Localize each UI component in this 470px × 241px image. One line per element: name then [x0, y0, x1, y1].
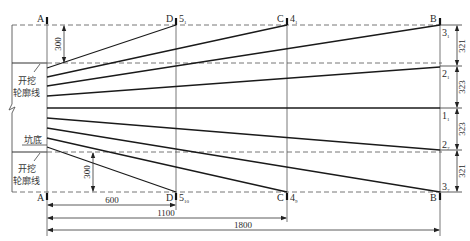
hole-5-10	[47, 147, 176, 192]
right-label-2-1: 21	[442, 68, 450, 80]
label-C-bottom: C	[277, 192, 284, 203]
dim-left-300-top: 300	[53, 37, 63, 51]
label-pit-bottom: 坑底	[24, 134, 42, 145]
dim-left-300-bottom: 300	[82, 165, 92, 179]
label-A-top: A	[37, 13, 45, 24]
right-label-3-7: 37	[442, 181, 450, 193]
dim-1100: 1100	[157, 208, 175, 218]
break-symbol	[9, 104, 15, 113]
right-label-3-1: 31	[442, 27, 450, 39]
right-label-2-7: 27	[442, 139, 450, 151]
blast-hole-layout-diagram: A D C B A D C B 51 41 510 49 31 21 11 27…	[0, 0, 470, 241]
right-label-1-1: 11	[442, 110, 450, 122]
hole-2-7-lower	[47, 118, 440, 150]
dim-right-321-bottom: 321	[457, 164, 467, 178]
label-D-top: D	[166, 13, 173, 24]
hole-label-4-1: 41	[290, 13, 298, 25]
label-A-bottom: A	[37, 192, 45, 203]
hole-4-9	[47, 138, 287, 192]
dim-right-323-lower: 323	[457, 122, 467, 136]
dim-right-321-top: 321	[457, 39, 467, 53]
label-excavation-contour-bottom-1: 开挖	[18, 163, 36, 174]
dim-right-323-upper: 323	[457, 80, 467, 94]
hole-4-1	[47, 25, 287, 77]
hole-label-4-9: 49	[290, 192, 298, 204]
label-D-bottom: D	[166, 192, 173, 203]
hole-label-5-1: 51	[179, 13, 187, 25]
blast-holes	[47, 25, 440, 192]
label-excavation-contour-top-1: 开挖	[18, 75, 36, 86]
label-C-top: C	[277, 13, 284, 24]
hole-2-1-upper	[47, 67, 440, 96]
label-excavation-contour-bottom-2: 轮廓线	[13, 175, 40, 186]
label-B-top: B	[430, 13, 437, 24]
hole-label-5-10: 510	[179, 192, 190, 204]
label-excavation-contour-top-2: 轮廓线	[13, 87, 40, 98]
label-B-bottom: B	[430, 192, 437, 203]
hole-5-1	[47, 25, 176, 68]
dim-1800: 1800	[234, 220, 253, 230]
dim-600: 600	[105, 195, 119, 205]
